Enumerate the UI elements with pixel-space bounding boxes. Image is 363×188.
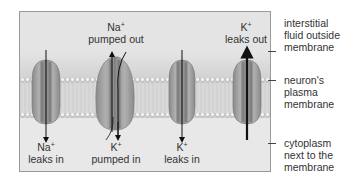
k-pumped-in-label: K+ pumped in: [85, 141, 147, 165]
label-text: pumped out: [88, 33, 143, 45]
ion-charge: +: [183, 141, 187, 148]
label-text: pumped in: [91, 153, 140, 165]
cytoplasm-label: cytoplasm next to the membrane: [284, 137, 334, 173]
label-line: membrane: [284, 98, 334, 110]
membrane-diagram: Na+ pumped out K+ leaks out Na+ leaks in…: [19, 11, 271, 172]
label-line: next to the: [284, 149, 334, 161]
label-text: leaks in: [164, 153, 200, 165]
ion-charge: +: [51, 141, 55, 148]
outside-fluid-label: interstitial fluid outside membrane: [284, 17, 340, 53]
k-leaks-out-label: K+ leaks out: [218, 21, 271, 45]
na-leaks-in-label: Na+ leaks in: [22, 141, 70, 165]
plasma-membrane-label: neuron's plasma membrane: [284, 74, 334, 110]
cytoplasm-leader-line: [268, 143, 276, 144]
outside-leader-line: [268, 51, 276, 52]
label-text: leaks out: [225, 33, 267, 45]
label-line: neuron's: [284, 74, 334, 86]
label-line: membrane: [284, 41, 340, 53]
ion-charge: +: [117, 141, 121, 148]
membrane-leader-line: [268, 80, 276, 81]
ion-symbol: Na: [37, 141, 50, 153]
k-leaks-in-label: K+ leaks in: [158, 141, 206, 165]
label-line: cytoplasm: [284, 137, 334, 149]
label-line: plasma: [284, 86, 334, 98]
label-line: fluid outside: [284, 29, 340, 41]
label-text: leaks in: [28, 153, 64, 165]
ion-symbol: Na: [107, 21, 120, 33]
label-line: interstitial: [284, 17, 340, 29]
ion-charge: +: [247, 21, 251, 28]
label-line: membrane: [284, 161, 334, 173]
ion-charge: +: [121, 21, 125, 28]
na-pumped-out-label: Na+ pumped out: [84, 21, 148, 45]
